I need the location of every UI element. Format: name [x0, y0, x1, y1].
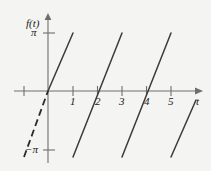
x-tick-label-5: 5 [168, 96, 174, 107]
x-tick-label-3: 3 [119, 96, 125, 107]
y-axis-arrowhead [45, 13, 52, 20]
x-axis-arrowhead [195, 87, 203, 94]
y-tick-label-pi: π [31, 27, 37, 38]
x-tick-label-1: 1 [70, 96, 76, 107]
x-tick-label-2: 2 [95, 96, 101, 107]
sawtooth-segment-0 [48, 33, 73, 91]
y-tick-label-minus-pi: −π [25, 144, 38, 155]
sawtooth-segment-3 [171, 100, 196, 157]
x-axis-label: t [196, 96, 199, 107]
sawtooth-wave-figure: f(t) t π −π 1 2 3 4 5 [0, 0, 211, 171]
x-tick-label-4: 4 [144, 96, 150, 107]
